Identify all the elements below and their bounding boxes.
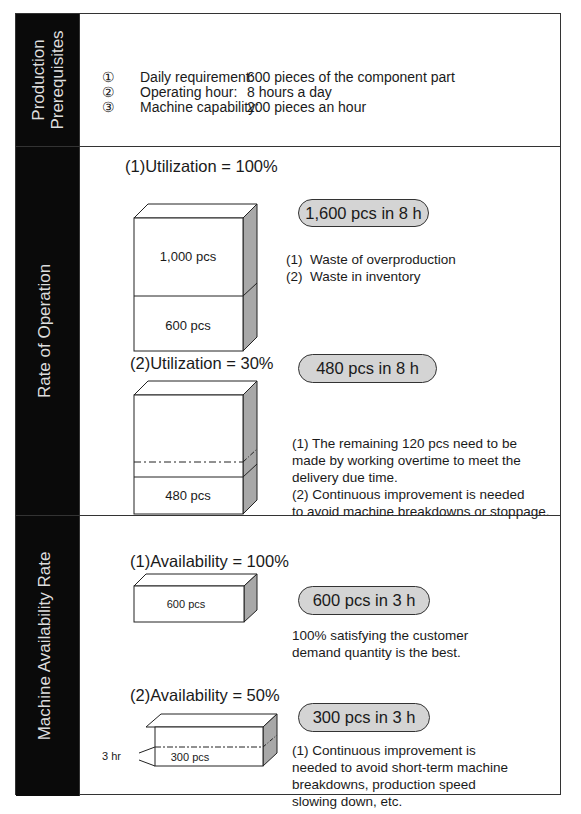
sidebar-label-rate: Rate of Operation xyxy=(34,264,53,398)
cube-label: 600 pcs xyxy=(167,598,206,610)
output-pill-1600: 1,600 pcs in 8 h xyxy=(298,199,429,227)
utilization-30-heading: (2)Utilization = 30% xyxy=(130,354,274,373)
prerequisites-content: ① Daily requirement: 600 pieces of the c… xyxy=(79,14,560,146)
cube-label: 300 pcs xyxy=(171,751,210,763)
output-pill-480: 480 pcs in 8 h xyxy=(298,354,437,383)
output-pill-600: 600 pcs in 3 h xyxy=(298,586,430,615)
waste-item: (1)Waste of overproduction xyxy=(286,251,456,268)
cube-availability-50: 3 hr 300 pcs xyxy=(102,713,272,773)
output-pill-300: 300 pcs in 3 h xyxy=(298,703,430,732)
availability-50-notes: (1) Continuous improvement is needed to … xyxy=(292,742,508,810)
availability-50-heading: (2)Availability = 50% xyxy=(130,686,280,705)
waste-item: (2)Waste in inventory xyxy=(286,268,456,285)
cube-lower-label: 480 pcs xyxy=(165,488,211,503)
utilization-30-notes: (1) The remaining 120 pcs need to be mad… xyxy=(292,435,549,520)
availability-content: (1)Availability = 100% 600 pcs 600 pcs i… xyxy=(79,516,560,796)
sidebar-availability: Machine Availability Rate xyxy=(16,516,79,796)
sidebar-prerequisites: Production Prerequisites xyxy=(16,14,79,146)
utilization-100-heading: (1)Utilization = 100% xyxy=(125,157,278,176)
cube-lower-label: 600 pcs xyxy=(165,318,211,333)
section-rate-of-operation: Rate of Operation (1)Utilization = 100% … xyxy=(16,146,560,515)
rate-content: (1)Utilization = 100% 1,000 pcs 600 pcs … xyxy=(79,147,560,515)
section-availability: Machine Availability Rate (1)Availabilit… xyxy=(16,515,560,796)
availability-100-heading: (1)Availability = 100% xyxy=(130,552,289,571)
cube-utilization-100: 1,000 pcs 600 pcs xyxy=(133,203,263,333)
cube-availability-100: 600 pcs xyxy=(133,573,263,633)
waste-list: (1)Waste of overproduction (2)Waste in i… xyxy=(286,251,456,285)
three-hour-marker: 3 hr xyxy=(102,750,121,762)
sidebar-rate-of-operation: Rate of Operation xyxy=(16,147,79,515)
diagram-frame: Production Prerequisites ① Daily require… xyxy=(15,13,561,795)
sidebar-label-availability: Machine Availability Rate xyxy=(34,552,53,741)
sidebar-label-prerequisites: Production Prerequisites xyxy=(29,30,67,129)
cube-utilization-30: 480 pcs xyxy=(133,380,263,510)
section-prerequisites: Production Prerequisites ① Daily require… xyxy=(16,14,560,146)
availability-100-notes: 100% satisfying the customer demand quan… xyxy=(292,627,468,661)
cube-upper-label: 1,000 pcs xyxy=(160,249,217,264)
